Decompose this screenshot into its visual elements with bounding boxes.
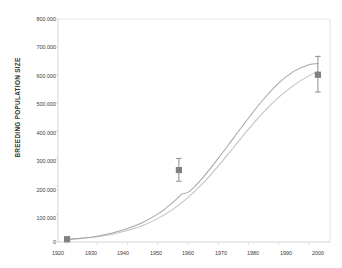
series-layer — [67, 64, 318, 240]
estimate-1957 — [176, 158, 182, 181]
series-modelled-curve-light — [67, 71, 318, 239]
series-modelled-curve-dark — [67, 64, 318, 240]
plot-frame — [56, 19, 331, 245]
estimate-1920 — [64, 236, 70, 242]
data-points-layer — [64, 56, 321, 242]
chart-container: BREEDING POPULATION SIZE 800.000 700.000… — [0, 0, 342, 268]
plot-area — [0, 0, 342, 268]
estimate-2003 — [315, 56, 321, 92]
